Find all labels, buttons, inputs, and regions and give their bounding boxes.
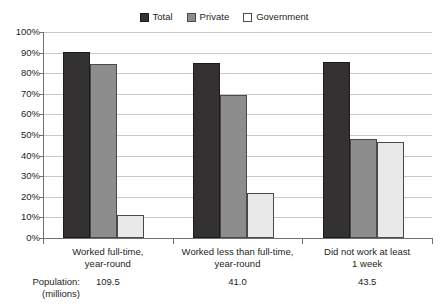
category-label-line1: Worked less than full-time, bbox=[165, 246, 311, 258]
legend-item-total[interactable]: Total bbox=[140, 12, 173, 22]
y-axis-tick-label: 50% bbox=[2, 130, 40, 140]
x-axis-category-tick bbox=[302, 238, 303, 244]
population-row: Population: (millions) 109.541.043.5 bbox=[0, 276, 448, 304]
population-value: 41.0 bbox=[173, 276, 303, 288]
legend-label-total: Total bbox=[153, 12, 173, 22]
category-label-line2: 1 week bbox=[294, 258, 440, 270]
legend-label-government: Government bbox=[256, 12, 308, 22]
gridline bbox=[43, 53, 432, 54]
category-label-line1: Worked full-time, bbox=[35, 246, 181, 258]
category-label-line1: Did not work at least bbox=[294, 246, 440, 258]
x-axis-category-labels: Worked full-time,year-roundWorked less t… bbox=[43, 246, 432, 274]
population-value: 43.5 bbox=[302, 276, 432, 288]
y-axis-tick-label: 20% bbox=[2, 192, 40, 202]
plot-area bbox=[43, 32, 432, 238]
population-value: 109.5 bbox=[43, 276, 173, 288]
bar-total-3[interactable] bbox=[323, 62, 350, 238]
bar-government-2[interactable] bbox=[247, 193, 274, 238]
legend-item-government[interactable]: Government bbox=[243, 12, 308, 22]
legend-swatch-private-icon bbox=[187, 13, 196, 22]
y-axis-tick-label: 10% bbox=[2, 212, 40, 222]
x-axis-category-tick bbox=[432, 238, 433, 244]
x-axis-category-label: Worked less than full-time,year-round bbox=[165, 246, 311, 270]
category-label-line2: year-round bbox=[35, 258, 181, 270]
gridline bbox=[43, 32, 432, 33]
bar-total-1[interactable] bbox=[63, 52, 90, 238]
x-axis-category-tick bbox=[43, 238, 44, 244]
y-axis-tick-label: 100% bbox=[2, 27, 40, 37]
category-label-line2: year-round bbox=[165, 258, 311, 270]
bar-chart: Total Private Government 100%90%80%70%60… bbox=[0, 0, 448, 307]
y-axis-tick-label: 40% bbox=[2, 151, 40, 161]
y-axis-tick-label: 90% bbox=[2, 48, 40, 58]
y-axis-tick-label: 80% bbox=[2, 68, 40, 78]
y-axis-tick-label: 0% bbox=[2, 233, 40, 243]
bar-private-3[interactable] bbox=[350, 139, 377, 238]
y-axis-tick-labels: 100%90%80%70%60%50%40%30%20%10%0% bbox=[0, 0, 40, 307]
y-axis-tick-label: 70% bbox=[2, 89, 40, 99]
y-axis-tick-label: 60% bbox=[2, 109, 40, 119]
legend-swatch-government-icon bbox=[243, 13, 252, 22]
x-axis-category-label: Did not work at least1 week bbox=[294, 246, 440, 270]
legend-label-private: Private bbox=[200, 12, 230, 22]
y-axis-line bbox=[43, 32, 44, 239]
legend-swatch-total-icon bbox=[140, 13, 149, 22]
x-axis-category-tick bbox=[173, 238, 174, 244]
bar-private-1[interactable] bbox=[90, 64, 117, 238]
y-axis-tick-label: 30% bbox=[2, 171, 40, 181]
chart-legend: Total Private Government bbox=[0, 9, 448, 25]
x-axis-line bbox=[43, 238, 432, 239]
bar-government-3[interactable] bbox=[377, 142, 404, 238]
bar-government-1[interactable] bbox=[117, 215, 144, 238]
x-axis-category-label: Worked full-time,year-round bbox=[35, 246, 181, 270]
bar-total-2[interactable] bbox=[193, 63, 220, 238]
population-title-line2: (millions) bbox=[2, 288, 80, 300]
bar-private-2[interactable] bbox=[220, 95, 247, 238]
legend-item-private[interactable]: Private bbox=[187, 12, 230, 22]
